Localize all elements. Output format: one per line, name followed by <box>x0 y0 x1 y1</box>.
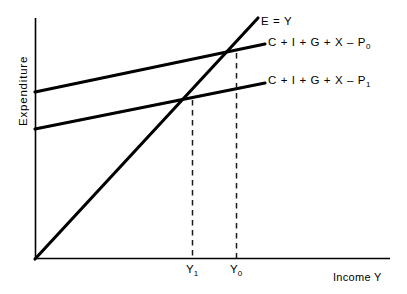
curve-label-p1: C + I + G + X – P1 <box>268 75 371 89</box>
x-axis-title: Income Y <box>333 272 382 283</box>
x-tick-y1-subscript: 1 <box>194 269 198 278</box>
keynesian-cross-figure: Expenditure E = Y C + I + G + X – P0 C +… <box>0 0 407 294</box>
x-tick-label-y0: Y0 <box>230 264 242 278</box>
x-tick-y0-subscript: 0 <box>238 269 242 278</box>
curve-label-p0-subscript: 0 <box>366 42 370 51</box>
y-axis-title: Expenditure <box>18 56 30 126</box>
curve-label-p1-subscript: 1 <box>366 80 370 89</box>
curve-label-p0-text: C + I + G + X – P <box>268 36 366 48</box>
x-tick-y0-text: Y <box>230 263 238 275</box>
line-expenditure-p1 <box>35 83 265 129</box>
x-tick-y1-text: Y <box>186 263 194 275</box>
line-e-equals-y <box>35 18 258 259</box>
x-tick-label-y1: Y1 <box>186 264 198 278</box>
line-expenditure-p0 <box>35 44 265 92</box>
curve-label-p1-text: C + I + G + X – P <box>268 74 366 86</box>
curve-label-p0: C + I + G + X – P0 <box>268 37 371 51</box>
curve-label-e-equals-y: E = Y <box>261 16 292 28</box>
